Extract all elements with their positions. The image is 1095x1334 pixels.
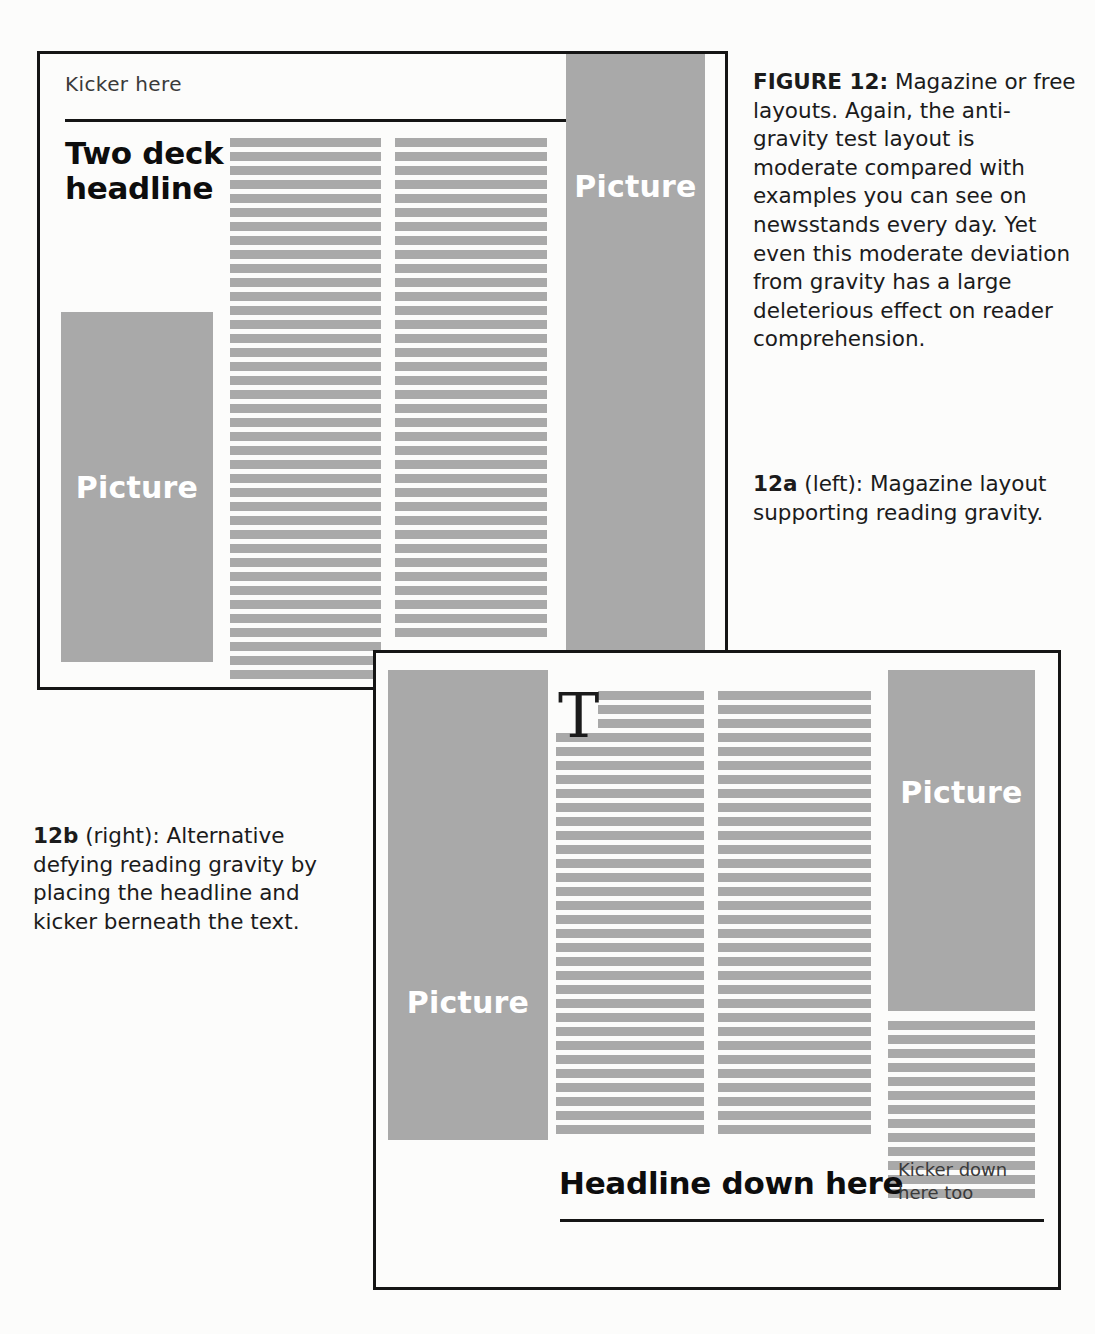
greeked-text-line <box>230 516 381 525</box>
greeked-text-line <box>395 222 547 231</box>
greeked-text-line <box>230 320 381 329</box>
greeked-text-line <box>556 831 704 840</box>
greeked-text-line <box>556 1055 704 1064</box>
panel-a-kicker: Kicker here <box>65 72 182 96</box>
greeked-text-line <box>230 446 381 455</box>
caption-12a-label: 12a <box>753 471 797 496</box>
greeked-text-line <box>395 558 547 567</box>
greeked-text-line <box>718 999 871 1008</box>
greeked-text-line <box>230 586 381 595</box>
caption-figure-12-label: FIGURE 12: <box>753 69 888 94</box>
greeked-text-line <box>556 1069 704 1078</box>
greeked-text-line <box>230 404 381 413</box>
greeked-text-line <box>718 817 871 826</box>
greeked-text-line <box>230 278 381 287</box>
greeked-text-line <box>230 418 381 427</box>
greeked-text-line <box>230 558 381 567</box>
greeked-text-line <box>395 306 547 315</box>
greeked-text-line <box>888 1119 1035 1128</box>
greeked-text-line <box>556 1097 704 1106</box>
greeked-text-line <box>395 194 547 203</box>
greeked-text-line <box>395 264 547 273</box>
panel-b-rule <box>560 1219 1044 1222</box>
greeked-text-line <box>718 957 871 966</box>
greeked-text-line <box>230 180 381 189</box>
greeked-text-line <box>718 985 871 994</box>
caption-figure-12-text: Magazine or free layouts. Again, the ant… <box>753 69 1076 351</box>
greeked-text-line <box>395 376 547 385</box>
greeked-text-line <box>230 628 381 637</box>
greeked-text-line <box>718 845 871 854</box>
greeked-text-line <box>718 789 871 798</box>
greeked-text-line <box>556 817 704 826</box>
greeked-text-line <box>395 502 547 511</box>
greeked-text-line <box>395 530 547 539</box>
greeked-text-line <box>718 747 871 756</box>
greeked-text-line <box>230 194 381 203</box>
greeked-text-line <box>230 362 381 371</box>
greeked-text-line <box>718 775 871 784</box>
greeked-text-line <box>718 831 871 840</box>
greeked-text-line <box>718 873 871 882</box>
greeked-text-line <box>718 859 871 868</box>
greeked-text-line <box>718 1125 871 1134</box>
greeked-text-line <box>395 418 547 427</box>
greeked-text-line <box>230 152 381 161</box>
greeked-text-line <box>230 208 381 217</box>
greeked-text-line <box>395 138 547 147</box>
greeked-text-line <box>888 1147 1035 1156</box>
greeked-text-line <box>395 208 547 217</box>
greeked-text-line <box>395 544 547 553</box>
greeked-text-line <box>556 957 704 966</box>
greeked-text-line <box>395 166 547 175</box>
greeked-text-line <box>230 222 381 231</box>
greeked-text-line <box>888 1133 1035 1142</box>
greeked-text-line <box>395 362 547 371</box>
greeked-text-line <box>230 334 381 343</box>
greeked-text-line <box>230 670 381 679</box>
greeked-text-line <box>395 460 547 469</box>
greeked-text-line <box>395 250 547 259</box>
greeked-text-line <box>395 390 547 399</box>
greeked-text-line <box>718 1069 871 1078</box>
greeked-text-line <box>230 530 381 539</box>
greeked-text-line <box>718 1083 871 1092</box>
greeked-text-line <box>718 1041 871 1050</box>
greeked-text-line <box>230 264 381 273</box>
caption-12a-text: (left): Magazine layout supporting readi… <box>753 471 1047 525</box>
greeked-text-line <box>556 1041 704 1050</box>
panel-b-drop-cap: T <box>558 691 599 742</box>
greeked-text-line <box>395 348 547 357</box>
greeked-text-line <box>230 600 381 609</box>
greeked-text-line <box>718 1027 871 1036</box>
caption-figure-12: FIGURE 12: Magazine or free layouts. Aga… <box>753 68 1083 354</box>
greeked-text-line <box>556 1083 704 1092</box>
greeked-text-line <box>395 572 547 581</box>
greeked-text-line <box>888 1021 1035 1030</box>
greeked-text-line <box>230 166 381 175</box>
greeked-text-line <box>230 488 381 497</box>
greeked-text-line <box>395 600 547 609</box>
greeked-text-line <box>556 845 704 854</box>
greeked-text-line <box>556 943 704 952</box>
greeked-text-line <box>395 586 547 595</box>
greeked-text-line <box>888 1105 1035 1114</box>
greeked-text-line <box>230 250 381 259</box>
greeked-text-line <box>556 1125 704 1134</box>
greeked-text-line <box>556 803 704 812</box>
greeked-text-line <box>718 915 871 924</box>
panel-a-rule <box>65 119 625 122</box>
greeked-text-line <box>395 446 547 455</box>
caption-12b: 12b (right): Alternative defying reading… <box>33 822 333 936</box>
greeked-text-line <box>888 1091 1035 1100</box>
panel-b-picture-right: Picture <box>888 670 1035 1011</box>
picture-label: Picture <box>574 169 696 204</box>
caption-12b-label: 12b <box>33 823 78 848</box>
greeked-text-line <box>395 488 547 497</box>
panel-a-picture-right: Picture <box>566 54 705 650</box>
greeked-text-line <box>395 628 547 637</box>
greeked-text-line <box>598 705 704 714</box>
greeked-text-line <box>230 292 381 301</box>
greeked-text-line <box>888 1035 1035 1044</box>
greeked-text-line <box>718 761 871 770</box>
